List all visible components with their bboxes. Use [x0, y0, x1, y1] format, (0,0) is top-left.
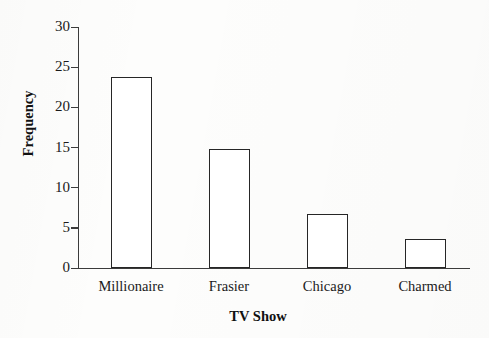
- x-axis-line: [78, 268, 470, 269]
- y-tick-mark: [71, 268, 78, 269]
- y-tick-label: 25: [55, 59, 70, 74]
- y-tick-label: 0: [63, 260, 71, 275]
- y-tick-mark: [71, 187, 78, 188]
- x-tick-label: Charmed: [365, 278, 485, 295]
- y-tick-label: 5: [63, 220, 71, 235]
- bar-chart: 051015202530 MillionaireFrasierChicagoCh…: [0, 0, 489, 338]
- y-tick-mark: [71, 227, 78, 228]
- y-tick-label: 20: [55, 99, 70, 114]
- y-tick-mark: [71, 107, 78, 108]
- x-axis-title: TV Show: [0, 308, 489, 325]
- bar: [307, 214, 348, 268]
- y-axis-line: [78, 27, 79, 269]
- y-tick-mark: [71, 67, 78, 68]
- bar: [209, 149, 250, 268]
- y-tick-label: 30: [55, 19, 70, 34]
- y-axis-title: Frequency: [20, 64, 37, 184]
- bar: [111, 77, 152, 268]
- y-tick-mark: [71, 147, 78, 148]
- y-tick-label: 15: [55, 140, 70, 155]
- bar: [405, 239, 446, 268]
- y-tick-label: 10: [55, 180, 70, 195]
- y-tick-mark: [71, 27, 78, 28]
